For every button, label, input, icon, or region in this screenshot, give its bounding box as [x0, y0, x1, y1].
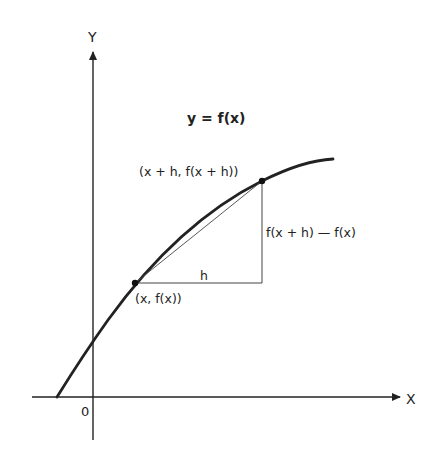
function-title: y = f(x): [187, 110, 246, 126]
point-x-plus-h: [259, 178, 265, 184]
origin-label: 0: [81, 404, 89, 419]
point-x: [132, 280, 138, 286]
secant-line: [135, 181, 262, 283]
horizontal-leg-label: h: [200, 268, 208, 283]
x-axis-label: X: [406, 391, 416, 407]
vertical-leg-label: f(x + h) — f(x): [266, 225, 356, 240]
point-x-label: (x, f(x)): [135, 291, 182, 306]
function-curve: [57, 159, 333, 397]
difference-quotient-diagram: Y X 0 y = f(x) (x + h, f(x + h)) f(x + h…: [0, 0, 433, 468]
point-x-plus-h-label: (x + h, f(x + h)): [139, 164, 238, 179]
y-axis-label: Y: [87, 29, 97, 45]
